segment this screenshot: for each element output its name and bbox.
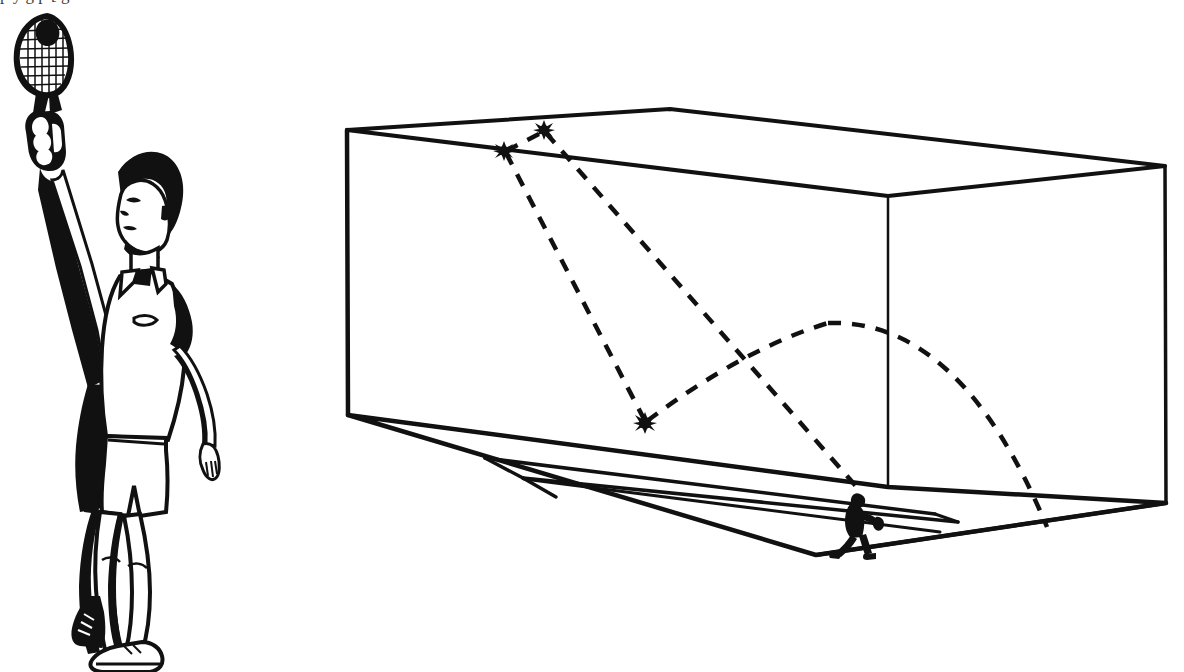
impact-points [493, 120, 657, 434]
ceiling-to-floor-path [506, 153, 645, 421]
ceiling-plane [347, 109, 1165, 196]
service-line [523, 478, 958, 522]
floor-bounce-rise [647, 323, 828, 421]
court-wireframe [347, 109, 1166, 555]
ball-trajectories [506, 131, 1047, 527]
figure-page: p y g p [ g [0, 0, 1184, 672]
court-perspective-diagram [0, 0, 1184, 672]
impact-ceiling-front [493, 141, 515, 161]
front-wall-left-edge [347, 130, 348, 415]
floor-plane [348, 415, 1166, 555]
back-right-vertical-edge [1165, 166, 1166, 503]
